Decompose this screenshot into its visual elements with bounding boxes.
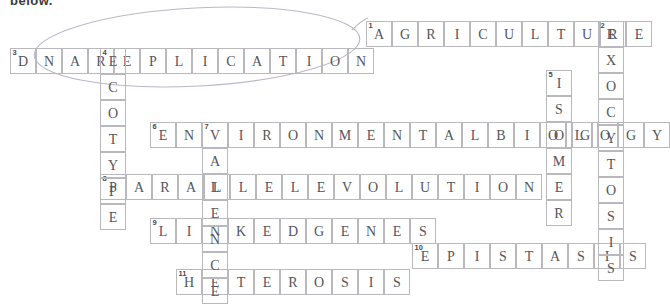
crossword-cell[interactable]: O xyxy=(322,48,348,74)
crossword-cell[interactable]: N xyxy=(202,226,228,252)
crossword-cell[interactable]: I xyxy=(464,174,490,200)
crossword-cell[interactable]: L xyxy=(386,174,412,200)
crossword-cell[interactable]: P xyxy=(140,48,166,74)
crossword-cell[interactable]: 11H xyxy=(176,269,202,295)
crossword-cell[interactable]: I xyxy=(598,229,624,255)
crossword-cell[interactable]: Y xyxy=(100,152,126,178)
crossword-cell[interactable]: N xyxy=(516,174,542,200)
crossword-cell[interactable]: O xyxy=(546,122,572,148)
crossword-cell[interactable]: G xyxy=(306,218,332,244)
crossword-cell[interactable]: L xyxy=(166,48,192,74)
crossword-cell[interactable]: C xyxy=(100,74,126,100)
crossword-cell[interactable]: C xyxy=(598,99,624,125)
crossword-cell[interactable]: C xyxy=(218,48,244,74)
crossword-cell[interactable]: T xyxy=(438,174,464,200)
crossword-cell[interactable]: N xyxy=(36,48,62,74)
crossword-cell[interactable]: T xyxy=(516,243,542,269)
crossword-cell[interactable]: G xyxy=(572,122,598,148)
crossword-cell[interactable]: E xyxy=(546,174,572,200)
crossword-cell[interactable]: M xyxy=(546,148,572,174)
crossword-cell[interactable]: Y xyxy=(598,125,624,151)
crossword-cell[interactable]: E xyxy=(202,200,228,226)
crossword-cell[interactable]: U xyxy=(574,21,600,47)
crossword-cell[interactable]: T xyxy=(270,48,296,74)
crossword-cell[interactable]: C xyxy=(470,21,496,47)
crossword-cell[interactable]: P xyxy=(438,243,464,269)
crossword-cell[interactable]: E xyxy=(100,204,126,230)
crossword-cell[interactable]: S xyxy=(410,218,436,244)
crossword-cell[interactable]: T xyxy=(228,269,254,295)
crossword-cell[interactable]: O xyxy=(598,73,624,99)
crossword-cell[interactable]: G xyxy=(392,21,418,47)
crossword-cell[interactable]: N xyxy=(358,218,384,244)
crossword-cell[interactable]: S xyxy=(568,243,594,269)
crossword-cell[interactable]: M xyxy=(332,122,358,148)
crossword-cell[interactable]: E xyxy=(254,218,280,244)
crossword-cell[interactable]: P xyxy=(100,178,126,204)
crossword-cell[interactable]: A xyxy=(244,48,270,74)
crossword-cell[interactable]: 1A xyxy=(366,21,392,47)
crossword-cell[interactable]: S xyxy=(490,243,516,269)
crossword-cell[interactable]: L xyxy=(230,174,256,200)
crossword-cell[interactable]: A xyxy=(542,243,568,269)
crossword-cell[interactable]: N xyxy=(348,48,374,74)
crossword-cell[interactable]: U xyxy=(412,174,438,200)
crossword-cell[interactable]: A xyxy=(62,48,88,74)
crossword-cell[interactable]: A xyxy=(178,174,204,200)
crossword-cell[interactable]: E xyxy=(384,218,410,244)
crossword-cell[interactable]: I xyxy=(228,122,254,148)
crossword-cell[interactable]: V xyxy=(334,174,360,200)
crossword-cell[interactable]: T xyxy=(598,151,624,177)
crossword-cell[interactable]: L xyxy=(462,122,488,148)
crossword-cell[interactable]: O xyxy=(490,174,516,200)
crossword-cell[interactable]: 6E xyxy=(150,122,176,148)
crossword-cell[interactable]: S xyxy=(598,203,624,229)
crossword-cell[interactable]: N xyxy=(384,122,410,148)
crossword-cell[interactable]: I xyxy=(358,269,384,295)
crossword-cell[interactable]: I xyxy=(464,243,490,269)
crossword-cell[interactable]: R xyxy=(254,122,280,148)
crossword-cell[interactable]: 10E xyxy=(412,243,438,269)
crossword-cell[interactable]: S xyxy=(546,96,572,122)
crossword-cell[interactable]: N xyxy=(306,122,332,148)
crossword-cell[interactable]: R xyxy=(418,21,444,47)
crossword-cell[interactable]: V7 xyxy=(202,122,228,148)
crossword-cell[interactable]: Y xyxy=(644,122,670,148)
crossword-cell[interactable]: R xyxy=(546,200,572,226)
crossword-cell[interactable]: R xyxy=(152,174,178,200)
crossword-cell[interactable]: T xyxy=(410,122,436,148)
crossword-cell[interactable]: O xyxy=(100,100,126,126)
crossword-cell[interactable]: I xyxy=(176,218,202,244)
crossword-cell[interactable]: I xyxy=(514,122,540,148)
crossword-cell[interactable]: S xyxy=(598,255,624,281)
crossword-cell[interactable]: B xyxy=(488,122,514,148)
crossword-cell[interactable]: R xyxy=(280,269,306,295)
crossword-cell[interactable]: N xyxy=(176,122,202,148)
crossword-cell[interactable]: T xyxy=(100,126,126,152)
crossword-cell[interactable]: I xyxy=(444,21,470,47)
crossword-cell[interactable]: A xyxy=(126,174,152,200)
crossword-cell[interactable]: O xyxy=(306,269,332,295)
crossword-cell[interactable]: E xyxy=(626,21,652,47)
crossword-cell[interactable]: O xyxy=(360,174,386,200)
crossword-cell[interactable]: A xyxy=(436,122,462,148)
crossword-cell[interactable]: K xyxy=(228,218,254,244)
crossword-cell[interactable]: E xyxy=(254,269,280,295)
crossword-cell[interactable]: 2E xyxy=(598,21,624,47)
crossword-cell[interactable]: S xyxy=(332,269,358,295)
crossword-cell[interactable]: T xyxy=(548,21,574,47)
crossword-cell[interactable]: E xyxy=(332,218,358,244)
crossword-cell[interactable]: O xyxy=(598,177,624,203)
crossword-cell[interactable]: C xyxy=(202,252,228,278)
crossword-cell[interactable]: X xyxy=(598,47,624,73)
crossword-cell[interactable]: I xyxy=(296,48,322,74)
crossword-cell[interactable]: I xyxy=(192,48,218,74)
crossword-cell[interactable]: 5I xyxy=(546,70,572,96)
crossword-cell[interactable]: E xyxy=(202,278,228,304)
crossword-cell[interactable]: L xyxy=(522,21,548,47)
crossword-cell[interactable]: E xyxy=(256,174,282,200)
crossword-cell[interactable]: L xyxy=(282,174,308,200)
crossword-cell[interactable]: A xyxy=(202,148,228,174)
crossword-cell[interactable]: S xyxy=(384,269,410,295)
crossword-cell[interactable]: O xyxy=(280,122,306,148)
